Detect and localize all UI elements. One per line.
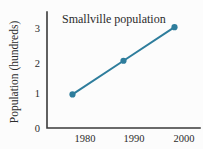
chart-title: Smallville population <box>62 12 166 26</box>
data-point-1990 <box>120 58 126 64</box>
line-chart: 3 2 1 0 1980 1990 2000 Population (hundr… <box>0 0 203 149</box>
x-tick-label-2000: 2000 <box>174 133 195 144</box>
x-tick-label-1990: 1990 <box>124 133 145 144</box>
y-tick-label-3: 3 <box>35 23 40 34</box>
data-point-1980 <box>69 91 75 97</box>
y-tick-label-2: 2 <box>35 58 40 69</box>
chart-axes <box>47 12 200 128</box>
chart-figure: 3 2 1 0 1980 1990 2000 Population (hundr… <box>0 0 203 149</box>
y-axis-title: Population (hundreds) <box>8 21 21 124</box>
data-point-2000 <box>171 24 177 30</box>
x-tick-label-1980: 1980 <box>75 133 96 144</box>
y-tick-label-0: 0 <box>35 123 40 134</box>
y-tick-label-1: 1 <box>35 88 40 99</box>
